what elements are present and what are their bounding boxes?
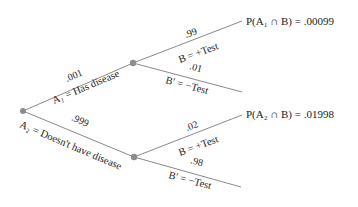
lower-node (131, 154, 137, 160)
event-lower-positive: B = +Test (177, 133, 220, 158)
prob-has-disease: .001 (63, 67, 83, 84)
root-node (20, 108, 26, 114)
prob-upper-negative: .01 (188, 60, 203, 74)
prob-no-disease: .999 (70, 112, 90, 129)
event-no-disease: A₂ = Doesn't have disease (18, 119, 123, 172)
event-has-disease: A₁ = Has disease (50, 68, 121, 106)
probability-tree-diagram: .001 A₁ = Has disease .999 A₂ = Doesn't … (0, 0, 358, 207)
prob-lower-negative: .98 (189, 154, 204, 168)
upper-node (130, 60, 136, 66)
prob-lower-positive: .02 (184, 118, 200, 133)
prob-upper-positive: .99 (183, 25, 199, 40)
result-upper-positive: P(A₁ ∩ B) = .00099 (246, 15, 334, 28)
result-lower-positive: P(A₂ ∩ B) = .01998 (246, 108, 334, 121)
